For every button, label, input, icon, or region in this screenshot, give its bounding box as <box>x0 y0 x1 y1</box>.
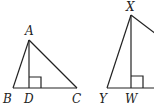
geometry-diagram: A B D C X Y W <box>0 0 154 110</box>
segment-xy <box>107 15 131 88</box>
right-angle-marker-d <box>29 77 41 88</box>
segment-x-right <box>131 15 154 34</box>
label-d: D <box>23 92 34 106</box>
right-angle-marker-w <box>131 76 143 88</box>
triangle-xyw: X Y W <box>99 0 154 106</box>
label-b: B <box>2 92 12 106</box>
triangle-abc: A B D C <box>2 24 81 106</box>
segment-ab <box>13 40 29 88</box>
label-a: A <box>24 24 34 38</box>
label-y: Y <box>99 92 108 106</box>
segment-ac <box>29 40 77 88</box>
label-x: X <box>125 0 135 14</box>
label-c: C <box>72 92 81 106</box>
label-w: W <box>125 92 139 106</box>
